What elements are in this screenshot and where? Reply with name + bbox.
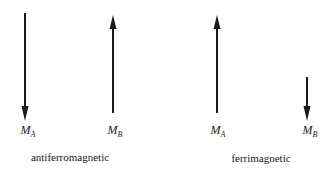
arrow-ferri-mb-down (304, 77, 311, 121)
label-antiferro-mb: MB (108, 124, 123, 141)
caption-antiferromagnetic: antiferromagnetic (31, 151, 109, 163)
label-ferri-ma: MA (211, 124, 226, 141)
arrow-ferri-ma-up (214, 15, 221, 113)
caption-ferrimagnetic: ferrimagnetic (231, 152, 290, 164)
magnetic-moments-diagram (0, 0, 331, 172)
label-antiferro-ma: MA (21, 124, 36, 141)
arrow-antiferro-mb-up (110, 15, 117, 113)
label-ferri-mb: MB (303, 124, 318, 141)
arrow-antiferro-ma-down (22, 13, 29, 121)
